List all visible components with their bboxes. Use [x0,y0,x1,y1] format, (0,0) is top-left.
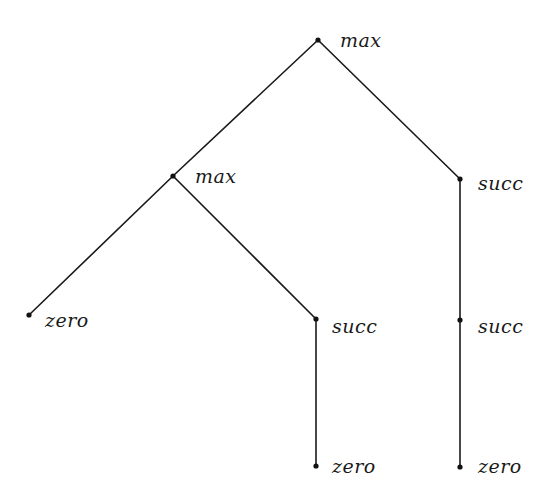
node-label: succ [332,315,377,337]
tree-node-succ: succ [313,315,377,337]
node-dot-icon [315,37,320,42]
node-dot-icon [457,317,462,322]
tree-node-succ: succ [457,172,523,194]
tree-node-succ: succ [457,315,523,337]
node-label: zero [44,309,89,331]
tree-node-zero: zero [313,455,375,477]
node-label: max [195,165,237,187]
node-label: succ [478,172,523,194]
node-label: succ [478,315,523,337]
node-label: zero [331,455,376,477]
node-label: max [340,29,382,51]
node-dot-icon [457,464,462,469]
tree-edges [29,40,460,467]
tree-node-zero: zero [457,455,521,477]
node-dot-icon [313,463,318,468]
node-dot-icon [313,316,318,321]
term-tree-diagram: maxmaxsucczerosuccsucczerozero [0,0,553,503]
node-dot-icon [26,312,31,317]
node-dot-icon [170,173,175,178]
node-dot-icon [457,176,462,181]
tree-edge [318,40,460,179]
tree-edge [173,40,318,176]
tree-nodes: maxmaxsucczerosuccsucczerozero [26,29,523,477]
tree-edge [173,176,316,319]
tree-node-zero: zero [26,309,88,331]
node-label: zero [477,455,522,477]
tree-edge [29,176,173,315]
